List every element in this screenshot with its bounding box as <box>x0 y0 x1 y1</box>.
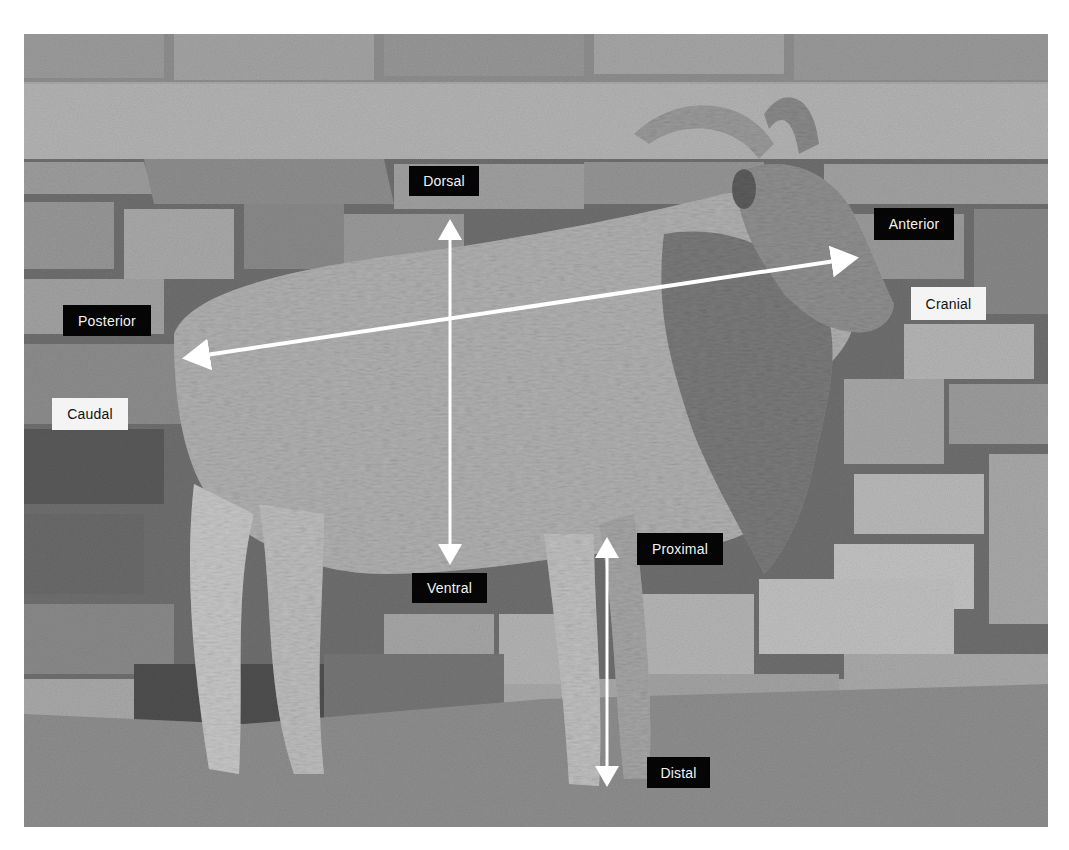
ventral-label: Ventral <box>412 573 487 603</box>
cranial-label: Cranial <box>911 287 986 320</box>
dorsal-label: Dorsal <box>409 166 479 196</box>
anterior-label: Anterior <box>874 208 954 240</box>
posterior-label: Posterior <box>63 305 151 336</box>
caudal-label: Caudal <box>52 398 128 430</box>
proximal-label: Proximal <box>637 533 723 565</box>
annotated-animal-photo <box>24 34 1048 827</box>
sheep-and-wall-scene <box>24 34 1048 827</box>
distal-label: Distal <box>647 757 710 788</box>
